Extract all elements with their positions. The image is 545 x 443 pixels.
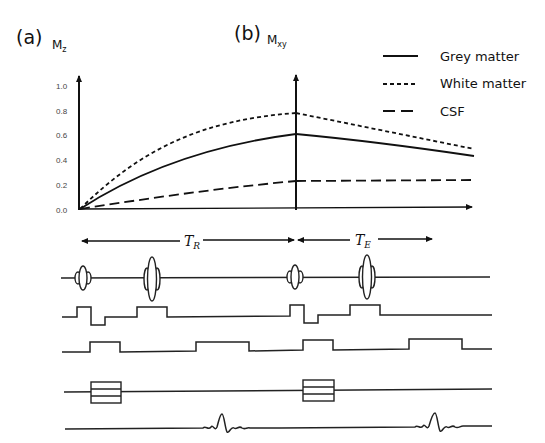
white-matter-recovery-curve (80, 113, 296, 209)
slice-gradient-row (62, 305, 492, 325)
y-tick: 0.2 (56, 181, 68, 190)
y-tick: 0.0 (56, 206, 68, 215)
mxy-axis-title: Mxy (267, 33, 287, 49)
rf-90-pulse-icon (75, 266, 91, 290)
phase-encode-table-icon (91, 382, 121, 403)
grey-matter-decay-curve (296, 134, 474, 156)
tr-label: TR (184, 233, 200, 251)
echo-signal-icon (65, 414, 280, 432)
csf-decay-curve (296, 180, 474, 181)
echo-signal-icon (280, 413, 492, 431)
panel-b-label: (b) (234, 22, 261, 44)
phase-encode-table-icon (303, 380, 334, 401)
legend-white-matter: White matter (440, 76, 527, 91)
te-label: TE (355, 232, 371, 250)
mri-sequence-diagram: (a) Mz (b) Mxy 1.0 0.8 0.6 0.4 0.2 0.0 G… (0, 0, 545, 443)
signal-row (65, 413, 492, 432)
y-tick: 1.0 (56, 82, 68, 91)
legend: Grey matter White matter CSF (383, 49, 527, 119)
frequency-gradient-row (62, 339, 492, 352)
mz-axis-title: Mz (52, 38, 67, 54)
panel-a-label: (a) (16, 26, 42, 48)
rf-90-pulse-icon (287, 265, 303, 289)
y-tick: 0.4 (56, 156, 68, 165)
phase-encode-row (64, 380, 492, 403)
y-tick-labels: 1.0 0.8 0.6 0.4 0.2 0.0 (56, 82, 68, 215)
rf-180-pulse-icon (144, 257, 160, 301)
y-tick: 0.6 (56, 131, 68, 140)
y-tick: 0.8 (56, 107, 68, 116)
csf-recovery-curve (80, 181, 296, 209)
grey-matter-recovery-curve (80, 134, 296, 209)
time-x-axis (79, 207, 472, 209)
rf-pulse-row (61, 255, 490, 301)
rf-180-pulse-icon (359, 255, 375, 299)
legend-grey-matter: Grey matter (440, 49, 520, 64)
legend-csf: CSF (440, 104, 465, 119)
